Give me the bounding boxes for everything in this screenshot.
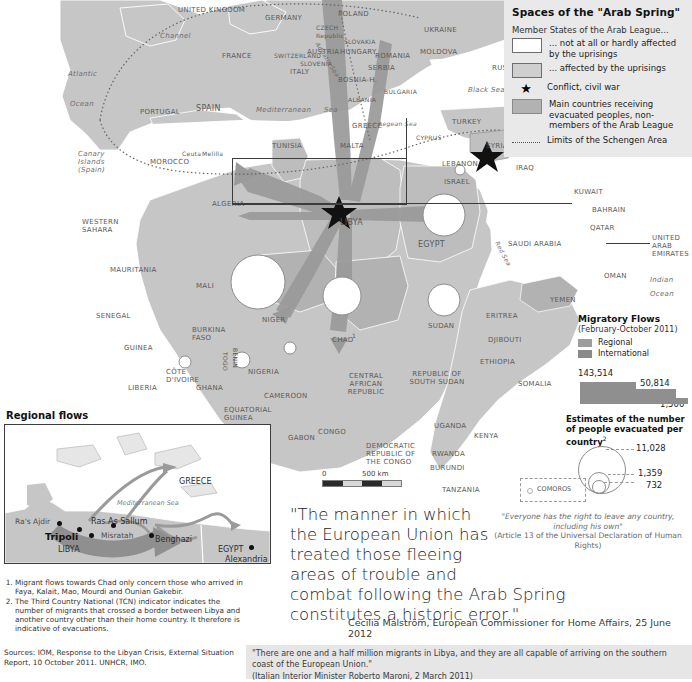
inset-label-tripoli: Tripoli <box>45 531 78 542</box>
circle-value-1: 11,028 <box>636 443 666 453</box>
inset-label-alexandria: Alexandria <box>225 555 268 564</box>
comoros-inset: COMOROS <box>520 478 586 502</box>
legend-item-label: ... affected by the uprisings <box>549 63 666 74</box>
inset-label-benghazi: Benghazi <box>155 535 192 544</box>
maroni-quote: "There are one and a half million migran… <box>252 649 686 670</box>
legend-subtitle: Member States of the Arab League... <box>512 25 684 35</box>
legend-panel: Spaces of the "Arab Spring" Member State… <box>504 0 692 157</box>
flows-key-international: International <box>578 349 692 358</box>
leader-732 <box>604 482 634 483</box>
uae-leader-line <box>606 243 650 244</box>
footnote-2: The Third Country National (TCN) indicat… <box>15 597 250 634</box>
leader-1359 <box>608 474 634 475</box>
inset-frame-line <box>232 203 572 204</box>
scale-zero: 0 <box>322 470 326 478</box>
scale-bar-segments <box>322 480 402 487</box>
leader-11028 <box>606 449 634 450</box>
comoros-label: COMOROS <box>537 485 571 493</box>
legend-item-affected: ... affected by the uprisings <box>512 63 684 78</box>
inset-label-egypt: EGYPT <box>218 545 243 554</box>
udhr-quote: "Everyone has the right to leave any cou… <box>488 512 688 531</box>
inset-dot-benghazi <box>149 533 154 538</box>
circle-value-2: 1,359 <box>638 468 662 478</box>
inset-dot-misratah <box>89 533 94 538</box>
quote-attribution: Cecilia Malström, European Commissioner … <box>348 617 692 639</box>
swatch-gray-icon <box>512 63 542 78</box>
legend-item-label: Conflict, civil war <box>547 82 620 93</box>
footnotes: Migrant flows towards Chad only concern … <box>4 578 250 634</box>
maroni-quote-block: "There are one and a half million migran… <box>246 645 692 679</box>
flows-key-regional: Regional <box>578 338 692 347</box>
flows-title: Migratory Flows <box>578 314 692 324</box>
flows-period: (February-October 2011) <box>578 325 692 334</box>
inset-label-rasajdir: Ra's Ajdir <box>15 517 50 526</box>
star-icon: ★ <box>512 82 540 95</box>
footnote-1: Migrant flows towards Chad only concern … <box>15 578 250 597</box>
dotted-line-icon <box>512 135 540 143</box>
bar-143514 <box>580 382 636 404</box>
bar-50814 <box>636 389 676 404</box>
flows-bar-chart <box>572 372 692 404</box>
inset-label-mediterranean: Mediterranean Sea <box>117 499 179 507</box>
legend-item-conflict: ★ Conflict, civil war <box>512 82 684 95</box>
inset-geometry <box>5 425 270 563</box>
swatch-dark-icon <box>512 99 542 114</box>
udhr-source: (Article 13 of the Universal Declaration… <box>488 531 688 550</box>
comoros-dot-icon <box>527 488 533 494</box>
migratory-flows-legend: Migratory Flows (February-October 2011) … <box>578 314 692 360</box>
legend-item-receiving: Main countries receiving evacuated peopl… <box>512 99 684 131</box>
legend-item-label: Limits of the Schengen Area <box>547 135 667 146</box>
legend-item-label: Main countries receiving evacuated peopl… <box>549 99 684 131</box>
scale-bar: 0 500 km <box>322 480 402 487</box>
inset-frame-vertical <box>406 118 407 203</box>
flows-key-label: Regional <box>598 338 633 347</box>
swatch-international-icon <box>578 350 592 358</box>
legend-item-schengen: Limits of the Schengen Area <box>512 135 684 146</box>
legend-item-label: ... not at all or hardly affected by the… <box>549 38 684 59</box>
flows-key-label: International <box>598 349 649 358</box>
legend-item-not-affected: ... not at all or hardly affected by the… <box>512 38 684 59</box>
inset-label-greece: GREECE <box>179 477 212 486</box>
quote-line-5: combat following the Arab Spring <box>290 585 580 605</box>
scale-distance: 500 km <box>362 470 388 478</box>
inset-dot-rasajdir <box>57 521 62 526</box>
maroni-source: (Italian Interior Minister Roberto Maron… <box>252 672 686 682</box>
regional-flows-inset: Ra's Ajdir Tripoli Ras As Sallum Misrata… <box>4 424 271 564</box>
sources-text: Sources: IOM, Response to the Libyan Cri… <box>4 648 242 667</box>
quote-line-4: areas of trouble and <box>290 565 580 585</box>
legend-title: Spaces of the "Arab Spring" <box>512 6 684 18</box>
inset-frame-box <box>232 158 407 205</box>
inset-title: Regional flows <box>6 410 88 421</box>
swatch-regional-icon <box>578 339 592 347</box>
inset-label-misratah: Misratah <box>101 531 133 540</box>
swatch-white-icon <box>512 38 542 53</box>
inset-label-rassallum: Ras As Sallum <box>91 517 147 526</box>
circle-value-3: 732 <box>646 480 662 490</box>
bar-under-1500 <box>676 398 688 404</box>
inset-dot-alexandria <box>249 545 254 550</box>
inset-label-libya: LIBYA <box>58 545 80 554</box>
udhr-quote-block: "Everyone has the right to leave any cou… <box>488 512 688 550</box>
